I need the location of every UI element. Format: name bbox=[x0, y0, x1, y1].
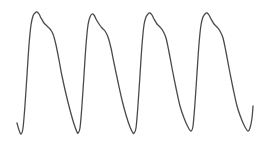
waveform-line bbox=[17, 12, 253, 134]
waveform-plot bbox=[0, 0, 269, 144]
waveform-chart bbox=[0, 0, 269, 144]
